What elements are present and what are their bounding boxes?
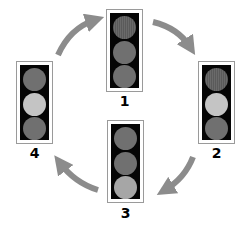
traffic-light-3 bbox=[107, 120, 144, 203]
lamp-red-off bbox=[114, 127, 137, 150]
arrow-4-to-1 bbox=[58, 20, 95, 55]
light-housing bbox=[110, 13, 139, 88]
lamp-red-on bbox=[205, 68, 228, 91]
lamp-red-on bbox=[113, 16, 136, 39]
lamp-green-off bbox=[23, 117, 46, 140]
light-label-4: 4 bbox=[16, 145, 53, 161]
arrow-1-to-2 bbox=[153, 22, 190, 47]
light-label-2: 2 bbox=[198, 145, 235, 161]
lamp-green-off bbox=[205, 117, 228, 140]
traffic-light-4 bbox=[16, 61, 53, 144]
light-housing bbox=[202, 65, 231, 140]
arrow-3-to-4 bbox=[60, 163, 98, 190]
arrow-2-to-3 bbox=[165, 157, 193, 190]
light-housing bbox=[111, 124, 140, 199]
lamp-amber-off bbox=[113, 41, 136, 64]
light-housing bbox=[20, 65, 49, 140]
light-label-3: 3 bbox=[107, 205, 144, 221]
lamp-amber-on bbox=[23, 93, 46, 116]
lamp-green-off bbox=[113, 65, 136, 88]
traffic-light-1 bbox=[106, 9, 143, 92]
traffic-light-2 bbox=[198, 61, 235, 144]
lamp-amber-on bbox=[205, 93, 228, 116]
lamp-green-on bbox=[114, 176, 137, 199]
lamp-amber-off bbox=[114, 152, 137, 175]
lamp-red-off bbox=[23, 68, 46, 91]
light-label-1: 1 bbox=[106, 93, 143, 109]
